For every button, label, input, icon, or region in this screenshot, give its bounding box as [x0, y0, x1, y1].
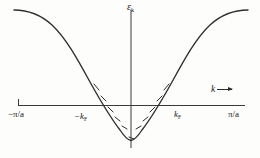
k-axis-symbol: k: [211, 84, 215, 94]
fermi-wavevector-negative-label: −kF: [74, 112, 87, 122]
energy-axis-label: εk: [127, 2, 134, 13]
zone-boundary-right-label: π/a: [228, 110, 239, 119]
band-dispersion-figure: εk k −π/a π/a −kF kF: [0, 0, 260, 158]
fermi-positive-subscript: F: [178, 114, 181, 120]
k-axis-label: k: [211, 85, 232, 95]
zone-boundary-left-label: −π/a: [8, 110, 24, 119]
right-arrow-icon: [217, 89, 232, 90]
fermi-negative-subscript: F: [84, 116, 87, 122]
fermi-wavevector-positive-label: kF: [174, 110, 181, 120]
energy-axis-subscript: k: [131, 6, 134, 13]
fermi-negative-symbol: −k: [74, 111, 84, 121]
plot-canvas: [0, 0, 260, 158]
